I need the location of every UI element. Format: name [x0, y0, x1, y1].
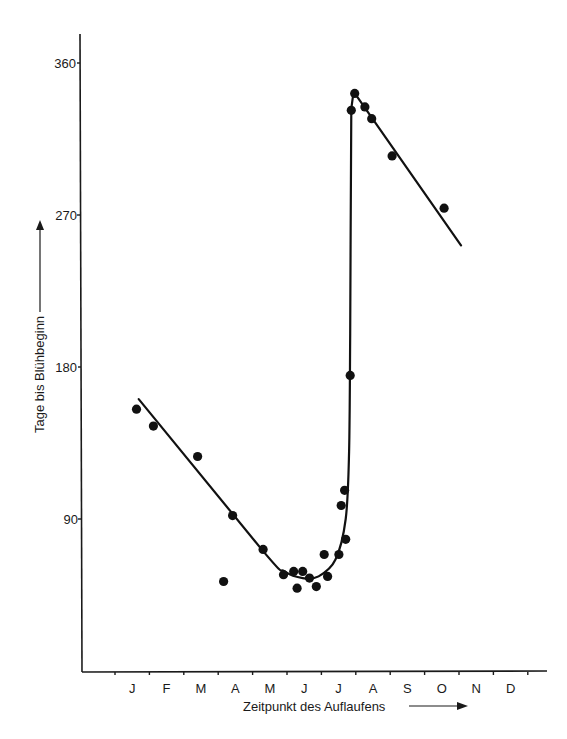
- data-point: [334, 550, 343, 559]
- data-point: [312, 582, 321, 591]
- x-tick-label-month: A: [231, 681, 240, 696]
- x-tick-label-month: N: [472, 681, 481, 696]
- data-point: [279, 570, 288, 579]
- data-point: [132, 405, 141, 414]
- data-point: [149, 422, 158, 431]
- data-point: [298, 567, 307, 576]
- data-point: [440, 204, 449, 213]
- x-tick-label-month: O: [437, 681, 447, 696]
- x-tick-label-month: F: [163, 681, 171, 696]
- x-tick-label-month: A: [369, 681, 378, 696]
- y-ticks: 360 270 180 90: [54, 56, 82, 527]
- x-tick-label-month: J: [301, 681, 308, 696]
- data-point: [350, 89, 359, 98]
- y-tick-label-90: 90: [64, 512, 78, 527]
- data-point: [320, 550, 329, 559]
- x-axis-title: Zeitpunkt des Auflaufens: [243, 699, 468, 714]
- x-ticks: JFMAMJJASOND: [115, 672, 528, 696]
- y-tick-label-270: 270: [55, 208, 77, 223]
- y-axis: [80, 34, 82, 672]
- data-point: [388, 151, 397, 160]
- data-point: [289, 567, 298, 576]
- data-point: [323, 572, 332, 581]
- data-point: [219, 577, 228, 586]
- data-point: [305, 574, 314, 583]
- x-tick-label-month: J: [335, 681, 342, 696]
- data-point: [193, 452, 202, 461]
- y-axis-title: Tage bis Blühbeginn: [32, 220, 47, 433]
- x-tick-label-month: J: [129, 681, 136, 696]
- data-point: [341, 535, 350, 544]
- data-point: [259, 545, 268, 554]
- x-tick-label-month: D: [506, 681, 515, 696]
- x-axis-arrow-icon: [457, 702, 468, 710]
- data-point: [340, 486, 349, 495]
- y-axis-arrow-icon: [36, 220, 44, 230]
- x-axis-label: Zeitpunkt des Auflaufens: [243, 699, 386, 714]
- data-point: [337, 501, 346, 510]
- y-axis-label: Tage bis Blühbeginn: [32, 316, 47, 433]
- data-point: [367, 114, 376, 123]
- y-tick-label-360: 360: [54, 56, 76, 71]
- data-point: [346, 371, 355, 380]
- data-point: [347, 106, 356, 115]
- x-tick-label-month: M: [264, 681, 275, 696]
- x-axis: [82, 671, 547, 672]
- data-point: [293, 584, 302, 593]
- chart-area: 360 270 180 90 JFMAMJJASOND Tage bis Blü…: [0, 0, 567, 739]
- y-tick-label-180: 180: [55, 360, 77, 375]
- data-point: [360, 102, 369, 111]
- fitted-curve: [139, 92, 461, 579]
- x-tick-label-month: S: [403, 681, 412, 696]
- x-tick-label-month: M: [196, 681, 207, 696]
- data-point: [228, 511, 237, 520]
- data-points: [132, 89, 449, 593]
